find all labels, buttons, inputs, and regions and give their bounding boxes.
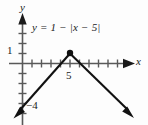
absolute-value-graph-figure: y x 1 5 −4 y = 1 − |x − 5| xyxy=(0,0,148,125)
plot-canvas xyxy=(0,0,148,125)
x-axis-label: x xyxy=(136,56,141,67)
y-axis-arrowhead xyxy=(18,13,26,25)
equation-annotation: y = 1 − |x − 5| xyxy=(32,22,101,33)
x-tick-label-5: 5 xyxy=(66,70,72,81)
vertex-point-marker xyxy=(67,50,73,56)
y-tick-label-1: 1 xyxy=(7,45,13,56)
x-axis-arrowhead xyxy=(123,59,135,69)
curve-right-arrowhead xyxy=(122,106,134,118)
y-axis-label: y xyxy=(20,2,25,13)
y-tick-label-minus-4: −4 xyxy=(26,100,38,111)
